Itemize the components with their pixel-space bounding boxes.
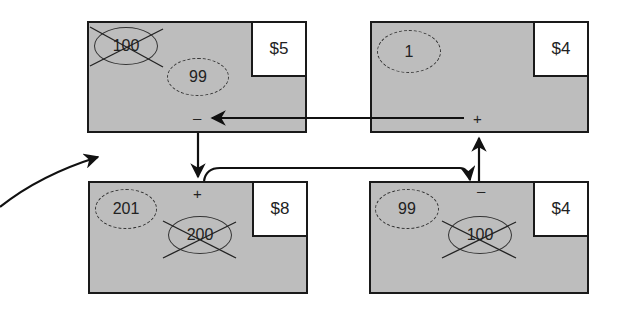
- price-label: $8: [252, 181, 308, 237]
- new-value: 99: [375, 189, 439, 229]
- old-value-crossed: 100: [94, 27, 158, 65]
- new-value: 99: [167, 58, 229, 96]
- minus-sign: –: [477, 183, 485, 198]
- account-box-top-right: $4 1 +: [370, 21, 589, 133]
- arrow-incoming-curved: [0, 157, 98, 207]
- new-value-text: 201: [113, 200, 140, 218]
- minus-sign: –: [193, 110, 201, 125]
- account-box-top-left: $5 100 99 –: [87, 21, 307, 133]
- old-value-crossed: 100: [448, 216, 512, 254]
- old-value: 100: [113, 37, 140, 55]
- price-label: $4: [533, 21, 589, 77]
- old-value-crossed: 200: [168, 216, 232, 254]
- new-value-text: 1: [405, 43, 414, 61]
- new-value-text: 99: [398, 200, 416, 218]
- old-value: 100: [467, 226, 494, 244]
- plus-sign: +: [473, 111, 482, 126]
- plus-sign: +: [193, 186, 202, 201]
- price-label: $4: [533, 181, 589, 237]
- price-label: $5: [251, 21, 307, 77]
- new-value: 1: [377, 30, 441, 73]
- arrow-transfer-bottom: [204, 168, 470, 181]
- new-value-text: 99: [189, 68, 207, 86]
- account-box-bottom-right: $4 99 100 –: [369, 181, 589, 294]
- new-value: 201: [95, 189, 157, 229]
- old-value: 200: [187, 226, 214, 244]
- account-box-bottom-left: $8 201 200 +: [88, 181, 308, 294]
